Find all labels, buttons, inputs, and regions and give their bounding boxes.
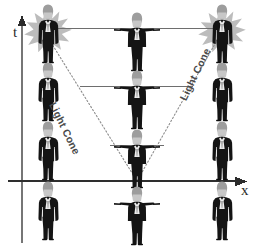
figure-right-row-top	[212, 4, 232, 63]
spacetime-diagram: t x Light Cone Light Cone	[0, 0, 258, 249]
figure-center-row-top	[114, 12, 160, 71]
arrow-up-icon	[18, 15, 27, 26]
diagram-canvas	[0, 0, 258, 249]
figure-center-row-bottom	[114, 186, 160, 245]
figure-left-row-top	[38, 4, 58, 63]
column-center	[114, 12, 160, 245]
figure-right-row-third	[212, 121, 232, 180]
t-axis-label: t	[13, 25, 17, 40]
figure-center-row-second	[114, 70, 160, 129]
figure-right-row-second	[212, 62, 232, 121]
figure-left-row-third	[38, 121, 58, 180]
x-axis-label: x	[241, 183, 249, 198]
figure-left-row-bottom	[38, 181, 58, 240]
figure-right-row-bottom	[212, 181, 232, 240]
column-right	[212, 4, 232, 240]
figure-center-row-third	[114, 129, 160, 188]
